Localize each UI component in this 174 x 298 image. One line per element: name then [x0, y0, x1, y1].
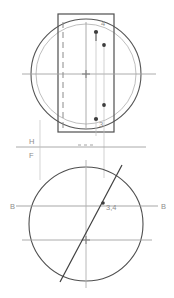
technical-drawing-canvas: 4 3 H F B B — [0, 0, 174, 298]
top-view-group: 4 3 — [22, 14, 156, 178]
inclined-cutting-line — [60, 165, 122, 282]
drawing-svg: 4 3 H F B B — [0, 0, 174, 298]
top-view-point-3 — [94, 117, 98, 121]
top-view-point-upper-aux — [102, 43, 106, 47]
label-fold-h: H — [29, 137, 34, 146]
top-view-point-4 — [94, 30, 98, 34]
label-coincident-points-34: 3,4 — [106, 203, 116, 212]
bottom-view-group: B B 3,4 — [10, 145, 166, 288]
label-point-3: 3 — [99, 120, 103, 129]
label-point-4: 4 — [101, 19, 105, 28]
label-fold-f: F — [29, 151, 34, 160]
label-aux-left-b: B — [10, 202, 15, 211]
top-view-point-lower-aux — [102, 103, 106, 107]
label-aux-right-b: B — [161, 202, 166, 211]
bottom-view-point-34 — [101, 201, 105, 205]
